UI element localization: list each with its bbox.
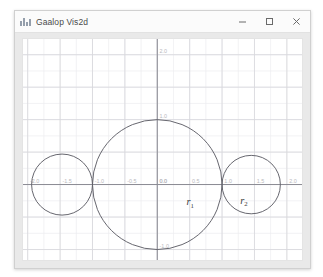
y-tick-label: 0.0 (160, 178, 168, 184)
plot-canvas[interactable]: -2.0-1.5-1.0-0.50.00.51.01.52.0-1.00.01.… (22, 38, 303, 261)
gaalop-vis2d-window: Gaalop Vis2d -2.0-1.5-1.0-0.50.00.51. (14, 10, 311, 269)
y-tick-label: 2.0 (160, 48, 168, 54)
x-tick-label: 0.5 (192, 178, 200, 184)
curve-annotations: r1r2 (186, 195, 248, 209)
maximize-button[interactable] (256, 11, 283, 32)
y-tick-label: -1.0 (160, 243, 169, 249)
axes (23, 39, 302, 260)
x-tick-label: -0.5 (127, 178, 136, 184)
close-button[interactable] (283, 11, 310, 32)
vis2d-plot[interactable]: -2.0-1.5-1.0-0.50.00.51.01.52.0-1.00.01.… (23, 39, 302, 260)
tick-labels: -2.0-1.5-1.0-0.50.00.51.01.52.0-1.00.01.… (30, 48, 297, 249)
x-tick-label: 1.0 (224, 178, 232, 184)
r2-label: r2 (240, 195, 248, 207)
grid-minor-lines (23, 39, 302, 260)
r1-label: r1 (186, 196, 193, 208)
window-title: Gaalop Vis2d (36, 17, 229, 27)
x-tick-label: 1.5 (257, 178, 265, 184)
grid-major-lines (23, 39, 302, 260)
chart-bars-icon (20, 16, 31, 27)
y-tick-label: 1.0 (160, 113, 168, 119)
x-tick-label: -1.5 (62, 178, 71, 184)
x-tick-label: -1.0 (95, 178, 104, 184)
x-tick-label: 2.0 (289, 178, 297, 184)
window-content: -2.0-1.5-1.0-0.50.00.51.01.52.0-1.00.01.… (15, 33, 310, 268)
title-bar[interactable]: Gaalop Vis2d (15, 11, 310, 33)
minimize-button[interactable] (229, 11, 256, 32)
